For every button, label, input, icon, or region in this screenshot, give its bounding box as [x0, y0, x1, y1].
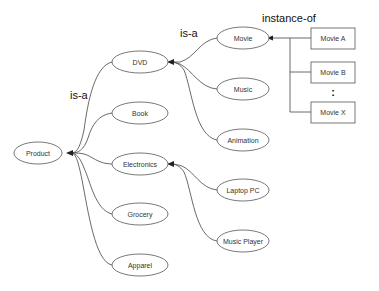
node-animation-label: Animation [227, 137, 258, 144]
node-grocery-label: Grocery [128, 211, 153, 219]
instance-movie-a: Movie A [311, 28, 355, 49]
node-laptop-pc: Laptop PC [217, 179, 269, 201]
node-laptop-pc-label: Laptop PC [226, 187, 259, 195]
instance-edges [267, 36, 311, 113]
edge-dvd-product [72, 62, 112, 153]
instance-movie-a-label: Movie A [321, 35, 346, 42]
edge-movie-dvd [172, 38, 217, 62]
is-a-label-2: is-a [180, 27, 199, 39]
node-electronics-label: Electronics [123, 161, 158, 168]
node-book-label: Book [132, 110, 148, 117]
instance-movie-x: Movie X [311, 102, 355, 123]
node-grocery: Grocery [112, 203, 168, 225]
node-music: Music [217, 78, 269, 100]
taxonomy-diagram: Product DVD Book Electronics Grocery App… [0, 0, 379, 291]
dvd-edges [167, 38, 217, 140]
node-movie: Movie [217, 27, 269, 49]
node-music-label: Music [234, 86, 253, 93]
node-music-player-label: Music Player [223, 238, 264, 246]
arrowhead-product [66, 150, 73, 156]
ellipsis-mark: : [331, 86, 335, 98]
instance-movie-x-label: Movie X [320, 109, 346, 116]
node-electronics: Electronics [112, 153, 168, 175]
edge-animation-dvd [172, 62, 217, 140]
node-dvd: DVD [112, 51, 168, 73]
node-animation: Animation [217, 129, 269, 151]
instance-movie-b-label: Movie B [320, 69, 346, 76]
instance-movie-b: Movie B [311, 62, 355, 83]
node-book: Book [112, 102, 168, 124]
node-product: Product [14, 142, 62, 164]
edge-music-dvd [172, 62, 217, 89]
edge-apparel-product [72, 153, 112, 265]
edge-laptop-electronics [172, 164, 217, 190]
node-apparel-label: Apparel [128, 262, 153, 270]
is-a-label-1: is-a [70, 89, 89, 101]
node-dvd-label: DVD [133, 59, 148, 66]
node-music-player: Music Player [217, 230, 269, 252]
node-movie-label: Movie [234, 35, 253, 42]
node-product-label: Product [26, 150, 50, 157]
edge-book-product [72, 113, 112, 153]
electronics-edges [167, 161, 217, 241]
instance-of-label: instance-of [262, 12, 317, 24]
node-apparel: Apparel [112, 254, 168, 276]
